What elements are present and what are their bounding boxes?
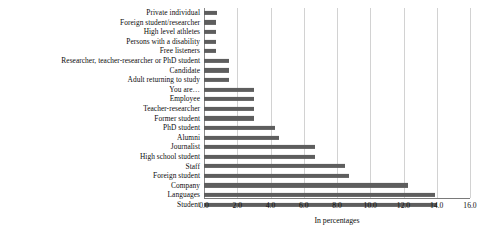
category-label: Adult returning to study <box>0 75 204 85</box>
bar-track <box>204 152 470 162</box>
bar <box>204 87 254 91</box>
bar <box>204 126 275 130</box>
bar-track <box>204 66 470 76</box>
bar-track <box>204 75 470 85</box>
category-label: Staff <box>0 162 204 172</box>
category-label: Former student <box>0 114 204 124</box>
bar <box>204 49 216 53</box>
bar-track <box>204 114 470 124</box>
bar <box>204 116 254 120</box>
bar <box>204 174 349 178</box>
x-tick-label: 16.0 <box>463 200 476 212</box>
bar-row: Employee <box>0 94 487 104</box>
category-label: Foreign student <box>0 171 204 181</box>
bar-track <box>204 133 470 143</box>
bar <box>204 11 217 15</box>
x-tick-label: 2.0 <box>233 200 243 212</box>
category-label: Alumni <box>0 133 204 143</box>
x-tick-label: 4.0 <box>266 200 276 212</box>
bar-track <box>204 123 470 133</box>
x-axis-ticks: 0.02.04.06.08.010.012.014.016.0 <box>204 200 470 214</box>
bar-row: PhD student <box>0 123 487 133</box>
x-tick-label: 0.0 <box>199 200 209 212</box>
bar-row: Adult returning to study <box>0 75 487 85</box>
category-label: Teacher-researcher <box>0 104 204 114</box>
category-label: Languages <box>0 190 204 200</box>
bar-row: Free listeners <box>0 46 487 56</box>
x-axis-line <box>204 198 470 199</box>
bar-row: Researcher, teacher-researcher or PhD st… <box>0 56 487 66</box>
x-tick-label: 14.0 <box>430 200 443 212</box>
bar <box>204 145 315 149</box>
bar-row: Company <box>0 181 487 191</box>
x-tick-label: 12.0 <box>397 200 410 212</box>
bar <box>204 59 229 63</box>
bar <box>204 135 279 139</box>
category-label: Free listeners <box>0 46 204 56</box>
bar-row: High level athletes <box>0 27 487 37</box>
bar <box>204 183 408 187</box>
bar-track <box>204 46 470 56</box>
bar <box>204 164 345 168</box>
bar-track <box>204 181 470 191</box>
bar-rows: Private individualForeign student/resear… <box>0 8 487 209</box>
bar-row: You are… <box>0 85 487 95</box>
bar-row: Journalist <box>0 142 487 152</box>
bar-track <box>204 37 470 47</box>
bar-track <box>204 8 470 18</box>
x-axis-title: In percentages <box>204 216 470 225</box>
bar <box>204 97 254 101</box>
bar-row: Private individual <box>0 8 487 18</box>
bar-track <box>204 18 470 28</box>
bar-track <box>204 27 470 37</box>
x-tick-label: 10.0 <box>364 200 377 212</box>
bar-track <box>204 142 470 152</box>
bar <box>204 193 435 197</box>
bar <box>204 20 216 24</box>
bar <box>204 30 216 34</box>
bar <box>204 39 216 43</box>
bar-row: Persons with a disability <box>0 37 487 47</box>
category-label: High level athletes <box>0 27 204 37</box>
bar-track <box>204 171 470 181</box>
category-label: You are… <box>0 85 204 95</box>
bar-track <box>204 94 470 104</box>
category-label: Employee <box>0 94 204 104</box>
plot-area: Private individualForeign student/resear… <box>0 0 487 243</box>
bar-track <box>204 85 470 95</box>
category-label: PhD student <box>0 123 204 133</box>
category-label: Persons with a disability <box>0 37 204 47</box>
bar-track <box>204 104 470 114</box>
bar <box>204 155 315 159</box>
bar-row: Teacher-researcher <box>0 104 487 114</box>
bar-row: Alumni <box>0 133 487 143</box>
category-label: Journalist <box>0 142 204 152</box>
bar-chart: Private individualForeign student/resear… <box>0 0 487 243</box>
bar-track <box>204 56 470 66</box>
category-label: High school student <box>0 152 204 162</box>
bar-track <box>204 162 470 172</box>
category-label: Candidate <box>0 66 204 76</box>
category-label: Foreign student/researcher <box>0 18 204 28</box>
bar-row: Foreign student <box>0 171 487 181</box>
bar-row: Candidate <box>0 66 487 76</box>
category-label: Company <box>0 181 204 191</box>
category-label: Student <box>0 200 204 210</box>
x-tick-label: 8.0 <box>332 200 342 212</box>
x-tick-label: 6.0 <box>299 200 309 212</box>
bar <box>204 68 229 72</box>
bar <box>204 78 229 82</box>
bar-row: Foreign student/researcher <box>0 18 487 28</box>
category-label: Researcher, teacher-researcher or PhD st… <box>0 56 204 66</box>
category-label: Private individual <box>0 8 204 18</box>
bar <box>204 107 254 111</box>
bar-row: Former student <box>0 114 487 124</box>
bar-row: Staff <box>0 162 487 172</box>
bar-row: High school student <box>0 152 487 162</box>
